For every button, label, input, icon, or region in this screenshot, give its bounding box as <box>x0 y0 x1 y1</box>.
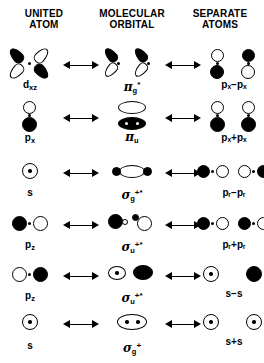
row-5: pz σu+* <box>0 258 264 310</box>
row-2-arrow-left <box>60 100 102 152</box>
row-4: pz σu+* <box>0 207 264 259</box>
row-5-molecular-cell: σu+* <box>102 258 162 310</box>
row-5-separate-label: s−s <box>204 288 264 299</box>
row-2-united-sub: x <box>31 136 35 145</box>
double-headed-arrow-icon <box>165 61 201 70</box>
row-1-molecular-label: πg* <box>102 79 162 96</box>
row-5-arrow-left <box>60 258 102 310</box>
row-4-united-sub: z <box>31 243 35 252</box>
row-6-united-base: s <box>27 340 33 351</box>
p-x-orbital-icon <box>0 100 60 134</box>
double-headed-arrow-icon <box>63 320 99 329</box>
row-3-united-label: s <box>0 187 60 198</box>
row-4-molecular-cell: σu+* <box>102 207 162 259</box>
header-separate-atoms-line1: SEPARATE <box>176 8 264 19</box>
double-headed-arrow-icon <box>63 114 99 123</box>
row-2-united-cell: px <box>0 100 60 152</box>
row-3-separate-label: pᵣ−pᵣ <box>204 187 264 198</box>
sigma-u-antibonding-orbital-icon <box>102 207 162 241</box>
pi-g-antibonding-orbital-icon <box>102 47 162 81</box>
row-5-molecular-base: σ <box>121 291 130 305</box>
row-1-united-label: dxz <box>0 79 60 93</box>
row-1-molecular-base: π <box>124 80 133 94</box>
sigma-g-bonding-orbital-icon <box>102 308 162 342</box>
header-molecular-orbital: MOLECULAR ORBITAL <box>88 8 176 30</box>
row-6-molecular-sup: + <box>136 341 141 350</box>
header-molecular-orbital-line2: ORBITAL <box>88 19 176 30</box>
row-5-molecular-label: σu+* <box>102 290 162 307</box>
row-4-arrow-left <box>60 207 102 259</box>
row-5-united-sub: z <box>31 294 35 303</box>
p-z-orbital-icon <box>0 207 60 241</box>
double-headed-arrow-icon <box>63 272 99 281</box>
row-3-molecular-cell: σg+* <box>102 155 162 207</box>
s-minus-s-orbital-icon <box>204 258 264 292</box>
row-6-molecular-base: σ <box>123 341 132 355</box>
header-separate-atoms-line2: ATOMS <box>176 19 264 30</box>
header-united-atom: UNITED ATOM <box>0 8 88 30</box>
row-6-united-cell: s <box>0 308 60 360</box>
mo-correlation-diagram: UNITED ATOM MOLECULAR ORBITAL SEPARATE A… <box>0 0 264 363</box>
column-headers: UNITED ATOM MOLECULAR ORBITAL SEPARATE A… <box>0 8 264 30</box>
sigma-g-antibonding-orbital-icon <box>102 155 162 189</box>
row-2-molecular-base: π <box>125 130 134 144</box>
row-4-separate-cell: pᵣ+pᵣ <box>204 207 264 259</box>
row-4-molecular-base: σ <box>121 240 130 254</box>
double-headed-arrow-icon <box>165 114 201 123</box>
row-2-separate-cell: pₓ+pₓ <box>204 100 264 152</box>
double-headed-arrow-icon <box>165 272 201 281</box>
row-6-molecular-label: σg+ <box>102 340 162 357</box>
pz-plus-pz-orbital-icon <box>204 207 264 241</box>
row-6-arrow-left <box>60 308 102 360</box>
s-orbital-icon <box>0 155 60 189</box>
row-2-molecular-cell: πu <box>102 100 162 152</box>
d-xz-orbital-icon <box>0 47 60 81</box>
header-molecular-orbital-line1: MOLECULAR <box>88 8 176 19</box>
row-2-molecular-sub: u <box>134 136 139 145</box>
row-3-molecular-label: σg+* <box>102 187 162 204</box>
row-5-united-label: pz <box>0 290 60 304</box>
row-2-molecular-label: πu <box>102 132 162 146</box>
px-plus-px-orbital-icon <box>204 100 264 134</box>
double-headed-arrow-icon <box>165 320 201 329</box>
row-3-separate-cell: pᵣ−pᵣ <box>204 155 264 207</box>
sigma-u-antibonding-orbital-icon <box>102 258 162 292</box>
row-5-molecular-sup: +* <box>135 291 143 300</box>
row-5-united-cell: pz <box>0 258 60 310</box>
row-2-separate-label: pₓ+pₓ <box>204 132 264 143</box>
row-5-arrow-right <box>162 258 204 310</box>
row-6: s σg+ <box>0 308 264 360</box>
header-united-atom-line2: ATOM <box>0 19 88 30</box>
row-2: px πu <box>0 100 264 152</box>
row-6-arrow-right <box>162 308 204 360</box>
double-headed-arrow-icon <box>63 61 99 70</box>
row-1-arrow-right <box>162 47 204 99</box>
row-1-arrow-left <box>60 47 102 99</box>
row-3-united-base: s <box>27 187 33 198</box>
header-united-atom-line1: UNITED <box>0 8 88 19</box>
row-1-separate-label: pₓ−pₓ <box>204 79 264 90</box>
row-3-molecular-sup: +* <box>135 188 143 197</box>
double-headed-arrow-icon <box>165 169 201 178</box>
row-1: dxz πg* <box>0 47 264 99</box>
row-6-molecular-cell: σg+ <box>102 308 162 360</box>
row-2-arrow-right <box>162 100 204 152</box>
row-4-united-cell: pz <box>0 207 60 259</box>
row-4-molecular-label: σu+* <box>102 239 162 256</box>
row-1-molecular-sup: * <box>137 80 140 89</box>
double-headed-arrow-icon <box>165 221 201 230</box>
row-1-molecular-cell: πg* <box>102 47 162 99</box>
row-6-separate-label: s+s <box>204 336 264 347</box>
double-headed-arrow-icon <box>63 221 99 230</box>
header-separate-atoms: SEPARATE ATOMS <box>176 8 264 30</box>
pi-u-bonding-orbital-icon <box>102 100 162 134</box>
p-z-orbital-icon <box>0 258 60 292</box>
row-4-separate-label: pᵣ+pᵣ <box>204 239 264 250</box>
row-6-separate-cell: s+s <box>204 308 264 360</box>
double-headed-arrow-icon <box>63 169 99 178</box>
row-4-molecular-sup: +* <box>135 240 143 249</box>
row-1-separate-cell: pₓ−pₓ <box>204 47 264 99</box>
row-1-united-sub: xz <box>29 83 37 92</box>
row-6-united-label: s <box>0 340 60 351</box>
row-1-united-cell: dxz <box>0 47 60 99</box>
